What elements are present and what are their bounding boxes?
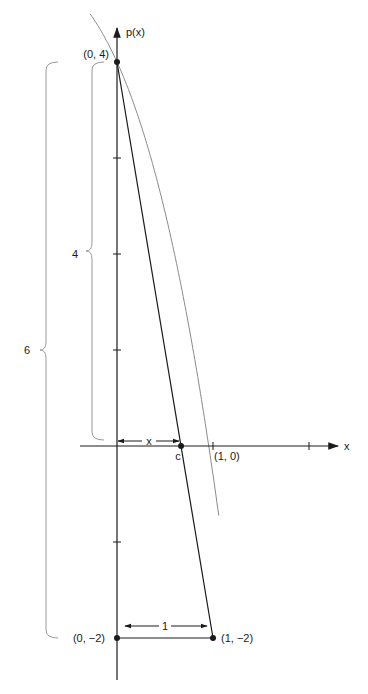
point-0-4 [114,59,120,65]
y-axis-label: p(x) [126,26,145,38]
label-x-mark-1-0: (1, 0) [214,450,240,462]
brace-4-label: 4 [72,248,78,260]
p-of-x-curve [90,14,219,516]
secant-method-diagram: 6 4 x 1 (0, 4) (0, −2) (1, −2) c (1, 0) … [0,0,368,694]
label-point-0-4: (0, 4) [83,48,109,60]
label-point-0-neg2: (0, −2) [73,632,105,644]
label-point-1-neg2: (1, −2) [221,632,253,644]
brace-6-label: 6 [24,344,30,356]
brace-6 [40,62,58,638]
point-c [178,443,184,449]
dimension-x-label: x [146,435,152,447]
dimension-1-label: 1 [162,620,168,632]
brace-4 [86,62,104,440]
x-axis-label: x [344,440,350,452]
point-1-neg2 [210,635,216,641]
point-0-neg2 [114,635,120,641]
label-point-c: c [175,450,181,462]
secant-line [117,62,213,638]
